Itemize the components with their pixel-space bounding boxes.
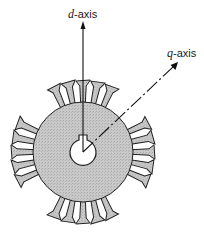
q-axis-suffix: -axis (173, 47, 196, 59)
q-axis-label: q-axis (167, 46, 196, 61)
rotor-diagram (0, 0, 204, 239)
d-axis-label: d-axis (68, 7, 97, 22)
d-axis-suffix: -axis (74, 8, 97, 20)
d-axis-arrowhead-icon (81, 21, 86, 29)
